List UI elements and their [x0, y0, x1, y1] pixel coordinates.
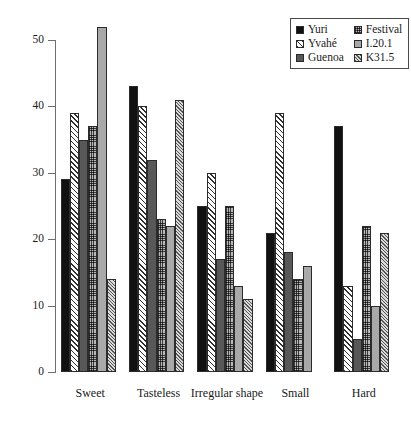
- legend-swatch-icon: [296, 26, 304, 34]
- bar-group-tasteless: [129, 40, 184, 372]
- bar-irregular-shape-yvah: [207, 173, 216, 372]
- y-axis-tick: [48, 173, 55, 174]
- bar-tasteless-i-20-1: [166, 226, 175, 372]
- bar-hard-guenoa: [353, 339, 362, 372]
- y-axis-tick-label: 40: [16, 100, 44, 112]
- bar-hard-yvah: [343, 286, 352, 372]
- bar-tasteless-festival: [157, 219, 166, 372]
- bar-sweet-guenoa: [79, 140, 88, 372]
- bar-sweet-yvah: [70, 113, 79, 372]
- legend-swatch-icon: [296, 54, 304, 62]
- legend-item-festival[interactable]: Festival: [354, 23, 402, 36]
- bar-group-irregular-shape: [197, 40, 252, 372]
- legend-label: Festival: [366, 23, 402, 36]
- bar-hard-yuri: [334, 126, 343, 372]
- bar-small-yuri: [266, 233, 275, 372]
- y-axis-tick-label: 20: [16, 233, 44, 245]
- bar-chart: 01020304050 SweetTastelessIrregular shap…: [0, 0, 411, 421]
- bar-small-yvah: [275, 113, 284, 372]
- y-axis-tick: [48, 40, 55, 41]
- bar-sweet-i-20-1: [97, 27, 106, 372]
- legend-item-yvah[interactable]: Yvahé: [296, 37, 344, 50]
- legend-swatch-icon: [354, 54, 362, 62]
- legend-swatch-icon: [296, 40, 304, 48]
- bar-small-i-20-1: [303, 266, 312, 372]
- y-axis-tick-label: 10: [16, 300, 44, 312]
- bar-small-guenoa: [284, 252, 293, 372]
- y-axis-tick: [48, 372, 55, 373]
- bar-group-sweet: [61, 40, 116, 372]
- plot-area: [56, 40, 398, 372]
- bar-tasteless-guenoa: [147, 160, 156, 372]
- bar-tasteless-yvah: [138, 106, 147, 372]
- bar-irregular-shape-guenoa: [216, 259, 225, 372]
- bar-hard-festival: [362, 226, 371, 372]
- legend-item-i-20-1[interactable]: I.20.1: [354, 37, 402, 50]
- bar-irregular-shape-yuri: [197, 206, 206, 372]
- chart-legend: YuriFestivalYvahéI.20.1GuenoaK31.5: [290, 18, 409, 69]
- legend-label: K31.5: [366, 51, 394, 64]
- bar-irregular-shape-k31-5: [243, 299, 252, 372]
- bar-group-small: [266, 40, 321, 372]
- bar-small-festival: [293, 279, 302, 372]
- bar-tasteless-k31-5: [175, 100, 184, 372]
- legend-label: I.20.1: [366, 37, 393, 50]
- y-axis-tick: [48, 306, 55, 307]
- y-axis-tick-label: 50: [16, 34, 44, 46]
- x-axis-label-hard: Hard: [320, 386, 408, 400]
- bar-irregular-shape-festival: [225, 206, 234, 372]
- legend-item-yuri[interactable]: Yuri: [296, 23, 344, 36]
- y-axis-tick: [48, 239, 55, 240]
- bar-sweet-yuri: [61, 179, 70, 372]
- legend-label: Guenoa: [308, 51, 344, 64]
- y-axis-tick: [48, 106, 55, 107]
- bar-irregular-shape-i-20-1: [234, 286, 243, 372]
- bar-hard-i-20-1: [371, 306, 380, 372]
- legend-item-k31-5[interactable]: K31.5: [354, 51, 402, 64]
- legend-swatch-icon: [354, 40, 362, 48]
- legend-item-guenoa[interactable]: Guenoa: [296, 51, 344, 64]
- bar-hard-k31-5: [380, 233, 389, 372]
- bar-sweet-k31-5: [107, 279, 116, 372]
- y-axis-tick-label: 0: [16, 366, 44, 378]
- y-axis-tick-label: 30: [16, 167, 44, 179]
- legend-swatch-icon: [354, 26, 362, 34]
- legend-label: Yvahé: [308, 37, 337, 50]
- legend-label: Yuri: [308, 23, 328, 36]
- bar-group-hard: [334, 40, 389, 372]
- bar-sweet-festival: [88, 126, 97, 372]
- bar-tasteless-yuri: [129, 86, 138, 372]
